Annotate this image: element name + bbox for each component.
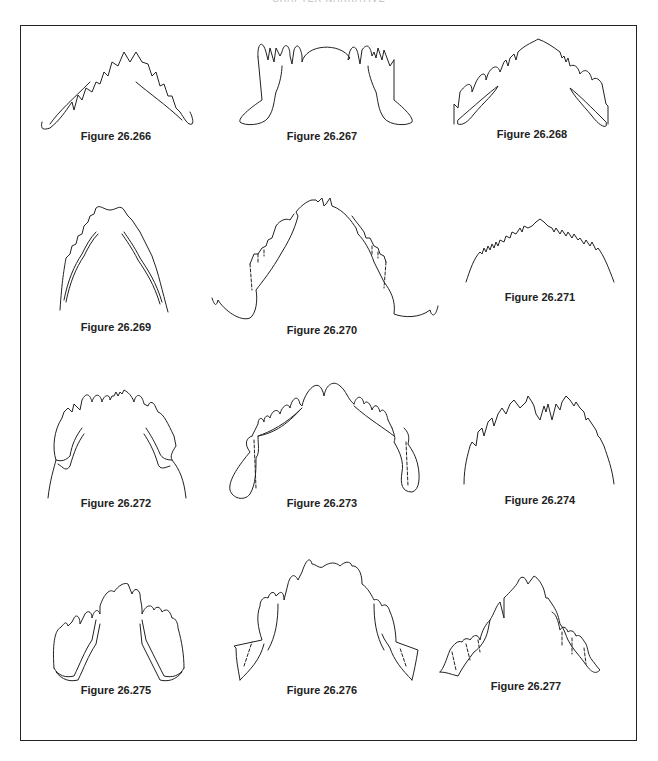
figure-caption: Figure 26.277 xyxy=(491,680,561,692)
